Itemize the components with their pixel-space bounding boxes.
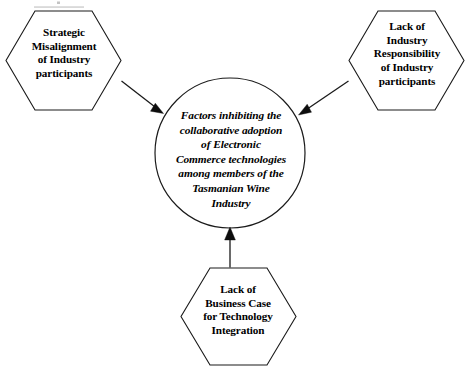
diagram-canvas <box>0 0 465 372</box>
arrow-right-to-center <box>299 81 349 115</box>
hexagon-strategic-misalignment <box>6 11 121 110</box>
hexagon-lack-of-industry-responsibility <box>349 11 464 110</box>
scan-artifact <box>34 2 84 8</box>
center-circle <box>155 78 305 228</box>
concept-diagram: Strategic Misalignment of Industry parti… <box>0 0 465 372</box>
arrow-left-to-center <box>122 81 164 114</box>
hexagon-lack-of-business-case <box>181 268 296 365</box>
arrow-bottom-to-center <box>225 227 236 268</box>
